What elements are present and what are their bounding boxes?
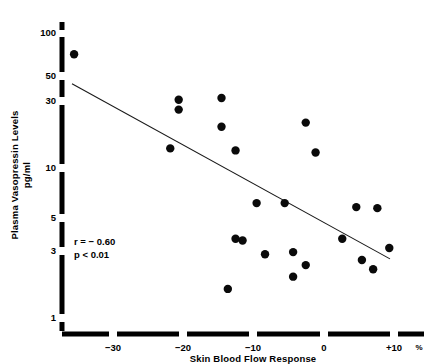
y-axis-unit: pg/ml xyxy=(21,162,32,188)
data-point xyxy=(252,199,260,207)
data-point xyxy=(338,235,346,243)
p-value-annotation: p < 0.01 xyxy=(74,249,110,260)
data-point xyxy=(373,204,381,212)
data-point xyxy=(311,148,319,156)
x-tick-label-zero: 0 xyxy=(321,342,326,353)
correlation-r-annotation: r = − 0.60 xyxy=(74,236,115,247)
data-point xyxy=(302,261,310,269)
regression-line xyxy=(72,84,390,259)
data-point xyxy=(289,272,297,280)
y-tick-label-5: 5 xyxy=(51,212,57,223)
chart-figure: 100 50 30 10 5 3 1 −30 −20 −10 0 +10 % P… xyxy=(0,0,433,364)
x-tick-label-minus30: −30 xyxy=(105,342,121,353)
y-tick-label-100: 100 xyxy=(40,27,56,38)
data-point xyxy=(302,118,310,126)
data-point xyxy=(174,96,182,104)
x-tick-label-plus10: +10 xyxy=(386,342,402,353)
y-tick-label-1: 1 xyxy=(51,312,57,323)
data-point xyxy=(358,256,366,264)
data-point xyxy=(217,123,225,131)
x-axis-unit-percent: % xyxy=(415,343,422,352)
data-point xyxy=(280,199,288,207)
x-axis-title: Skin Blood Flow Response xyxy=(190,353,317,364)
data-point xyxy=(224,285,232,293)
x-tick-label-minus10: −10 xyxy=(245,342,261,353)
y-tick-label-10: 10 xyxy=(45,162,56,173)
x-tick-label-minus20: −20 xyxy=(175,342,191,353)
data-point xyxy=(231,235,239,243)
y-axis-title: Plasma Vasopressin Levels xyxy=(9,110,20,239)
scatter-plot: 100 50 30 10 5 3 1 −30 −20 −10 0 +10 % P… xyxy=(0,0,433,364)
data-point xyxy=(231,146,239,154)
y-tick-label-3: 3 xyxy=(51,245,56,256)
y-tick-label-50: 50 xyxy=(45,70,56,81)
data-point xyxy=(238,236,246,244)
data-point xyxy=(289,248,297,256)
data-point xyxy=(70,50,78,58)
y-tick-label-30: 30 xyxy=(45,95,56,106)
data-point xyxy=(174,105,182,113)
data-point xyxy=(352,203,360,211)
data-point xyxy=(166,144,174,152)
data-point xyxy=(261,250,269,258)
data-point xyxy=(217,94,225,102)
data-point xyxy=(385,244,393,252)
data-point xyxy=(369,265,377,273)
